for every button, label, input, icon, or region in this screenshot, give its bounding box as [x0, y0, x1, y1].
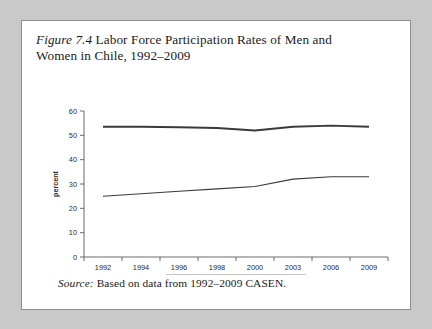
series-line-men — [103, 126, 369, 131]
y-tick-label: 50 — [69, 131, 77, 140]
x-tick-label: 1994 — [133, 263, 149, 272]
x-tick-label: 1992 — [95, 263, 111, 272]
source-note: Source: Based on data from 1992–2009 CAS… — [58, 277, 286, 289]
y-tick-label: 20 — [69, 204, 77, 213]
x-axis-ticks: 19921994199619982000200320062009 — [84, 257, 388, 272]
y-tick-label: 0 — [73, 253, 77, 262]
x-tick-label: 2006 — [323, 263, 339, 272]
x-tick-label: 2000 — [247, 263, 263, 272]
y-tick-label: 30 — [69, 180, 77, 189]
y-axis-title: percent — [51, 170, 60, 197]
series-line-women — [103, 177, 369, 196]
x-tick-label: 1998 — [209, 263, 225, 272]
source-label: Source: — [58, 277, 94, 289]
y-axis-ticks: 0102030405060 — [69, 107, 84, 262]
figure-caption: Figure 7.4 Labor Force Participation Rat… — [36, 32, 366, 63]
y-tick-label: 60 — [69, 107, 77, 116]
y-tick-label: 10 — [69, 228, 77, 237]
x-tick-label: 1996 — [171, 263, 187, 272]
line-chart: 0102030405060 19921994199619982000200320… — [36, 77, 398, 275]
x-tick-label: 2009 — [361, 263, 377, 272]
x-tick-label: 2003 — [285, 263, 301, 272]
figure-page: Figure 7.4 Labor Force Participation Rat… — [0, 0, 432, 329]
figure-container: Figure 7.4 Labor Force Participation Rat… — [21, 20, 411, 310]
source-text: Based on data from 1992–2009 CASEN. — [94, 277, 286, 289]
y-tick-label: 40 — [69, 155, 77, 164]
chart-plot-area: 0102030405060 19921994199619982000200320… — [36, 77, 398, 275]
figure-number: Figure 7.4 — [36, 32, 92, 47]
